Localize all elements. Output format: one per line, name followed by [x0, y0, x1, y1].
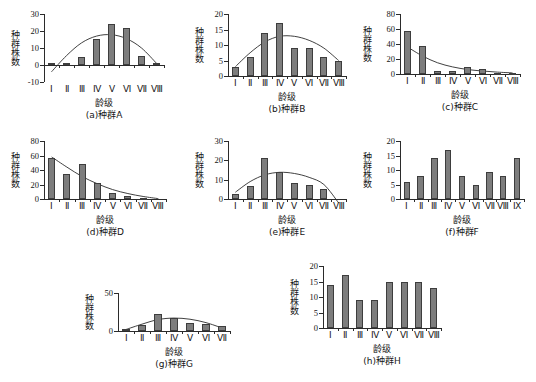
x-tick-c-3 — [460, 74, 461, 77]
y-axis-title-c: 种群株数 — [358, 12, 371, 76]
bar-a-1 — [63, 63, 70, 65]
x-tick-label-g-4: Ⅴ — [187, 334, 193, 343]
bar-b-4 — [291, 48, 298, 76]
x-tick-label-e-7: Ⅷ — [333, 202, 345, 211]
bar-d-6 — [140, 198, 147, 200]
y-tick-label-e-3: 30 — [215, 137, 224, 146]
x-tick-d-1 — [75, 199, 76, 202]
y-axis-title-f: 种群株数 — [358, 139, 371, 201]
x-tick-g-5 — [214, 331, 215, 334]
y-tick-label-e-1: 10 — [215, 176, 224, 185]
y-tick-f-0 — [396, 199, 400, 200]
chart-panel-inner-c: 种群株数020406080ⅠⅡⅢⅣⅤⅥⅦⅧ龄级(c)种群C — [358, 6, 526, 114]
plot-area-d: 020406080ⅠⅡⅢⅣⅤⅥⅦⅧ — [44, 141, 166, 199]
x-tick-label-h-6: Ⅶ — [414, 331, 424, 340]
x-tick-a-1 — [74, 65, 75, 68]
y-tick-label-f-4: 20 — [387, 137, 396, 146]
y-tick-d-2 — [40, 170, 44, 171]
x-tick-e-7 — [346, 199, 347, 202]
y-tick-a-4 — [40, 14, 44, 15]
y-axis-title-d: 种群株数 — [6, 139, 19, 201]
plot-inner-b: 05101520ⅠⅡⅢⅣⅤⅥⅦⅧ — [228, 14, 346, 76]
bar-f-1 — [417, 176, 423, 199]
x-tick-c-1 — [430, 74, 431, 77]
bar-f-3 — [445, 150, 451, 199]
chart-panel-a: 种群株数-100102030ⅠⅡⅢⅣⅤⅥⅦⅧ龄级(a)种群A — [6, 6, 170, 122]
y-tick-b-4 — [224, 14, 228, 15]
x-tick-a-4 — [119, 65, 120, 68]
x-tick-label-c-4: Ⅴ — [465, 77, 471, 86]
x-axis-title-h: 龄级 — [323, 344, 441, 354]
y-tick-a-2 — [40, 48, 44, 49]
plot-inner-h: 05101520ⅠⅡⅢⅣⅤⅥⅦⅧ — [323, 266, 441, 328]
bar-d-2 — [79, 164, 86, 199]
y-tick-label-c-2: 40 — [387, 40, 396, 49]
y-tick-e-0 — [224, 199, 228, 200]
bar-g-3 — [170, 318, 177, 331]
x-tick-label-f-1: Ⅱ — [419, 202, 423, 211]
x-tick-d-0 — [59, 199, 60, 202]
x-tick-h-5 — [412, 328, 413, 331]
bar-h-1 — [342, 275, 349, 328]
x-tick-b-3 — [287, 76, 288, 79]
panel-caption-g: (g)种群G — [118, 359, 230, 369]
panel-caption-f: (f)种群F — [400, 227, 524, 237]
y-axis-line-a — [44, 14, 45, 82]
y-tick-label-c-3: 60 — [387, 25, 396, 34]
bar-c-5 — [479, 69, 486, 74]
bar-f-2 — [431, 158, 437, 199]
y-tick-a-3 — [40, 31, 44, 32]
plot-inner-a: -100102030ⅠⅡⅢⅣⅤⅥⅦⅧ — [44, 14, 164, 82]
x-tick-d-4 — [120, 199, 121, 202]
x-tick-e-4 — [302, 199, 303, 202]
bar-f-5 — [473, 185, 479, 200]
x-tick-label-h-3: Ⅳ — [371, 331, 379, 340]
plot-area-a: -100102030ⅠⅡⅢⅣⅤⅥⅦⅧ — [44, 14, 164, 82]
x-tick-label-a-1: Ⅱ — [65, 85, 69, 94]
chart-panel-e: 种群株数0102030ⅠⅡⅢⅣⅤⅥⅦⅧ龄级(e)种群E — [190, 133, 352, 239]
y-tick-label-f-0: 0 — [391, 195, 395, 204]
x-tick-label-d-3: Ⅳ — [93, 202, 101, 211]
x-tick-a-5 — [134, 65, 135, 68]
chart-panel-inner-a: 种群株数-100102030ⅠⅡⅢⅣⅤⅥⅦⅧ龄级(a)种群A — [6, 6, 170, 122]
bar-g-5 — [202, 324, 209, 331]
bar-b-3 — [276, 23, 283, 76]
y-axis-line-e — [228, 141, 229, 199]
bar-a-3 — [93, 39, 100, 65]
bar-h-0 — [327, 285, 334, 328]
x-tick-label-b-6: Ⅶ — [319, 79, 329, 88]
bar-f-0 — [404, 182, 410, 199]
y-tick-label-d-4: 80 — [31, 137, 40, 146]
chart-panel-b: 种群株数05101520ⅠⅡⅢⅣⅤⅥⅦⅧ龄级(b)种群B — [190, 6, 352, 116]
x-tick-label-c-0: Ⅰ — [406, 77, 409, 86]
y-tick-b-1 — [224, 61, 228, 62]
x-tick-f-3 — [455, 199, 456, 202]
x-axis-line-f — [400, 199, 524, 200]
chart-panel-inner-d: 种群株数020406080ⅠⅡⅢⅣⅤⅥⅦⅧ龄级(d)种群D — [6, 133, 172, 239]
y-tick-label-c-0: 0 — [391, 70, 395, 79]
bar-h-2 — [356, 300, 363, 328]
bar-a-0 — [48, 63, 55, 65]
bar-f-8 — [514, 158, 520, 199]
y-tick-e-2 — [224, 160, 228, 161]
x-tick-label-a-4: Ⅴ — [109, 85, 115, 94]
y-tick-d-0 — [40, 199, 44, 200]
x-tick-d-2 — [90, 199, 91, 202]
x-tick-label-d-1: Ⅱ — [65, 202, 69, 211]
x-tick-c-4 — [475, 74, 476, 77]
y-tick-c-3 — [396, 29, 400, 30]
x-tick-c-2 — [445, 74, 446, 77]
x-axis-title-c: 龄级 — [400, 90, 520, 100]
y-tick-label-b-4: 20 — [215, 10, 224, 19]
bar-g-2 — [154, 314, 161, 331]
x-tick-label-c-3: Ⅳ — [449, 77, 457, 86]
trend-curve-d — [44, 141, 166, 199]
y-tick-c-2 — [396, 44, 400, 45]
bar-h-5 — [401, 282, 408, 329]
x-tick-a-7 — [164, 65, 165, 68]
x-axis-title-b: 龄级 — [228, 92, 346, 102]
chart-panel-g: 种群株数050ⅠⅡⅢⅣⅤⅥⅦ龄级(g)种群G — [80, 285, 236, 371]
x-tick-d-5 — [136, 199, 137, 202]
x-tick-f-5 — [483, 199, 484, 202]
y-tick-label-b-2: 10 — [215, 41, 224, 50]
